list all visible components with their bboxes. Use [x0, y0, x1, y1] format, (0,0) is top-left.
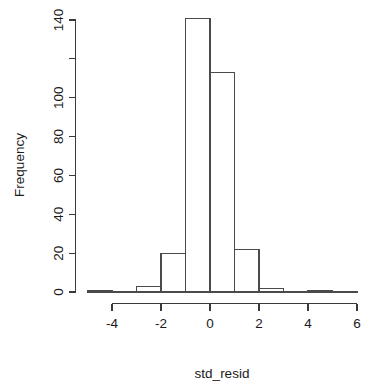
x-tick-label: 0 [206, 316, 214, 331]
x-axis [112, 304, 357, 311]
histogram-bars [88, 18, 358, 292]
histogram-bar [235, 249, 260, 292]
histogram-bar [210, 72, 235, 292]
y-tick-labels: 020406080100140 [51, 9, 66, 296]
x-tick-label: -4 [106, 316, 118, 331]
histogram-bar [88, 290, 113, 292]
histogram-bar [186, 18, 211, 292]
x-tick-label: 4 [304, 316, 312, 331]
histogram-figure: 020406080100140 -4-20246 Frequency std_r… [0, 0, 370, 391]
histogram-bar [112, 291, 137, 292]
x-tick-label: 2 [255, 316, 263, 331]
y-tick-label: 60 [51, 168, 66, 183]
y-tick-label: 140 [51, 9, 66, 32]
histogram-bar [333, 291, 358, 292]
y-tick-label: 20 [51, 246, 66, 261]
histogram-bar [161, 253, 186, 292]
y-tick-label: 100 [51, 86, 66, 109]
histogram-bar [137, 286, 162, 292]
x-tick-label: 6 [353, 316, 361, 331]
y-tick-label: 80 [51, 129, 66, 144]
y-tick-label: 0 [51, 288, 66, 296]
y-axis [69, 20, 76, 292]
histogram-bar [284, 291, 309, 292]
y-axis-title: Frequency [12, 133, 27, 197]
histogram-bar [259, 288, 284, 292]
y-tick-label: 40 [51, 207, 66, 222]
plot-canvas: 020406080100140 -4-20246 Frequency std_r… [0, 0, 370, 391]
histogram-bar [308, 290, 333, 292]
x-axis-title: std_resid [195, 366, 250, 381]
x-tick-labels: -4-20246 [106, 316, 361, 331]
x-tick-label: -2 [155, 316, 167, 331]
